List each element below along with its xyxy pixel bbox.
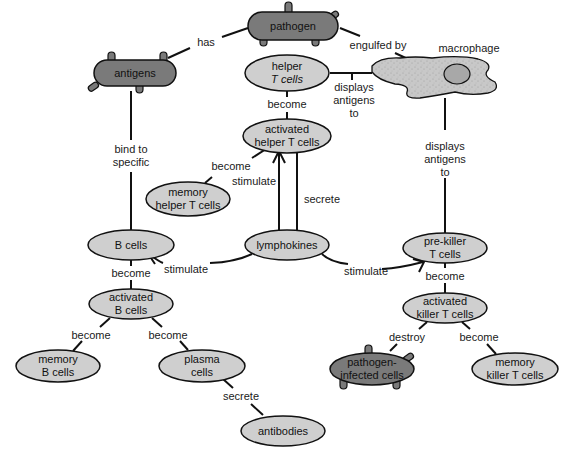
label-stimulate-killer: stimulate <box>344 265 388 277</box>
node-pre-killer-line2: T cells <box>429 248 461 260</box>
node-activated-helper-line2: helper T cells <box>254 136 320 148</box>
node-b-cells[interactable]: B cells <box>88 230 174 260</box>
label-become-killer: become <box>425 270 464 282</box>
macrophage-nucleus <box>444 64 470 84</box>
node-activated-b-line1: activated <box>109 291 153 303</box>
label-become-mem-helper: become <box>211 160 250 172</box>
node-macrophage-label: macrophage <box>438 42 499 54</box>
edge-become-plasma-a <box>152 318 162 327</box>
edge-become-memb-b <box>73 341 82 351</box>
node-memory-killer-line1: memory <box>495 356 535 368</box>
label-become-b: become <box>111 267 150 279</box>
edge-stimulate-b-a <box>210 254 252 263</box>
edge-become-plasma-b <box>180 341 188 350</box>
label-become-plasma: become <box>148 329 187 341</box>
macrophage-body <box>372 57 496 98</box>
node-memory-helper-line1: memory <box>168 186 208 198</box>
label-displays-helper-3: to <box>349 107 358 119</box>
node-memory-killer-line2: killer T cells <box>486 369 544 381</box>
node-helper-t-cells[interactable]: helper T cells <box>245 55 329 91</box>
edge-stimulate-killer-a <box>322 254 348 264</box>
label-secrete-lymph: secrete <box>304 193 340 205</box>
node-plasma-line2: cells <box>191 366 214 378</box>
edge-become-mem-helper-b <box>205 177 212 183</box>
node-lymphokines-label: lymphokines <box>256 239 318 251</box>
label-has: has <box>197 36 215 48</box>
node-activated-killer-line2: killer T cells <box>416 308 474 320</box>
node-activated-helper-t-cells[interactable]: activated helper T cells <box>243 119 331 153</box>
node-pathogen-infected-line1: pathogen- <box>347 356 397 368</box>
edge-become-memk-a <box>462 322 470 329</box>
node-memory-b-cells[interactable]: memory B cells <box>16 350 100 382</box>
node-activated-helper-line1: activated <box>265 123 309 135</box>
label-bind-1: bind to <box>114 143 147 155</box>
node-b-cells-label: B cells <box>115 239 148 251</box>
label-displays-killer-2: antigens <box>424 153 466 165</box>
node-lymphokines[interactable]: lymphokines <box>245 230 329 260</box>
concept-map: has engulfed by displays antigens to dis… <box>0 0 568 458</box>
node-memory-helper-t-cells[interactable]: memory helper T cells <box>146 182 230 216</box>
label-engulfed-by: engulfed by <box>350 39 407 51</box>
node-pre-killer-line1: pre-killer <box>424 235 467 247</box>
label-become-memory-killer: become <box>459 331 498 343</box>
node-activated-b-cells[interactable]: activated B cells <box>89 289 173 319</box>
label-become-helper: become <box>267 98 306 110</box>
node-antigens-label: antigens <box>114 67 156 79</box>
node-antibodies[interactable]: antibodies <box>241 416 325 446</box>
label-displays-killer-3: to <box>440 166 449 178</box>
label-displays-killer-1: displays <box>425 140 465 152</box>
edge-engulfed-a <box>340 28 360 36</box>
edge-has-a <box>222 28 248 37</box>
edge-stimulate-killer-b <box>382 262 423 269</box>
label-stimulate-b: stimulate <box>164 263 208 275</box>
label-displays-helper-2: antigens <box>333 94 375 106</box>
edge-destroy-b <box>390 344 397 351</box>
node-antigens[interactable]: antigens <box>87 52 176 93</box>
label-become-memory-b: become <box>71 329 110 341</box>
node-pathogen-infected-cells[interactable]: pathogen- infected cells <box>330 345 415 389</box>
edge-become-memb-a <box>100 318 110 327</box>
node-pathogen-label: pathogen <box>270 20 316 32</box>
node-antibodies-label: antibodies <box>258 425 309 437</box>
node-activated-killer-line1: activated <box>423 295 467 307</box>
label-displays-helper-1: displays <box>334 81 374 93</box>
label-secrete-antibodies: secrete <box>223 390 259 402</box>
node-memory-killer-t-cells[interactable]: memory killer T cells <box>472 353 558 385</box>
label-destroy: destroy <box>389 331 426 343</box>
node-memory-helper-line2: helper T cells <box>155 199 221 211</box>
node-memory-b-line1: memory <box>38 353 78 365</box>
node-pathogen-infected-line2: infected cells <box>340 369 404 381</box>
edge-has-b <box>168 48 190 58</box>
edge-destroy-a <box>419 322 427 329</box>
label-stimulate-helper: stimulate <box>232 175 276 187</box>
node-pre-killer-t-cells[interactable]: pre-killer T cells <box>403 233 487 263</box>
label-bind-2: specific <box>113 156 150 168</box>
node-activated-b-line2: B cells <box>115 304 148 316</box>
edge-secrete-ab-b <box>251 404 263 415</box>
node-activated-killer-t-cells[interactable]: activated killer T cells <box>403 293 487 323</box>
node-plasma-cells[interactable]: plasma cells <box>159 350 245 382</box>
node-helper-t-line1: helper <box>272 60 303 72</box>
node-plasma-line1: plasma <box>184 353 220 365</box>
node-helper-t-line2: T cells <box>271 73 303 85</box>
edge-become-memk-b <box>487 344 496 354</box>
node-memory-b-line2: B cells <box>42 366 75 378</box>
node-pathogen[interactable]: pathogen <box>248 2 340 46</box>
